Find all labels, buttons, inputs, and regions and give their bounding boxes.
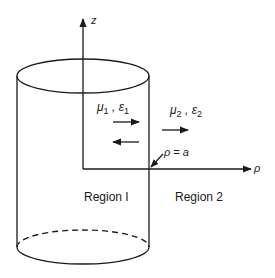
region2-separator: , (185, 103, 188, 117)
mu2-subscript: 2 (177, 109, 182, 119)
eps1-subscript: 1 (124, 106, 129, 116)
region1-separator: , (112, 100, 115, 114)
region1-label: Region I (84, 191, 129, 203)
rho-axis-label: ρ (254, 163, 260, 174)
cylinder-bottom-back-dashed (17, 230, 149, 247)
boundary-label: ρ = a (164, 147, 189, 158)
cylinder-bottom-front (17, 247, 149, 264)
cylinder-boundary-diagram (0, 0, 275, 278)
mu2-symbol: μ (170, 103, 177, 117)
mu1-symbol: μ (97, 100, 104, 114)
z-axis-label: z (91, 15, 97, 26)
region2-label: Region 2 (175, 191, 223, 203)
mu1-subscript: 1 (104, 106, 109, 116)
eps2-subscript: 2 (197, 109, 202, 119)
region2-material-label: μ2 , ε2 (170, 104, 202, 119)
region1-material-label: μ1 , ε1 (97, 101, 129, 116)
boundary-pointer-arrow (151, 154, 163, 167)
wave-arrows (113, 122, 188, 142)
